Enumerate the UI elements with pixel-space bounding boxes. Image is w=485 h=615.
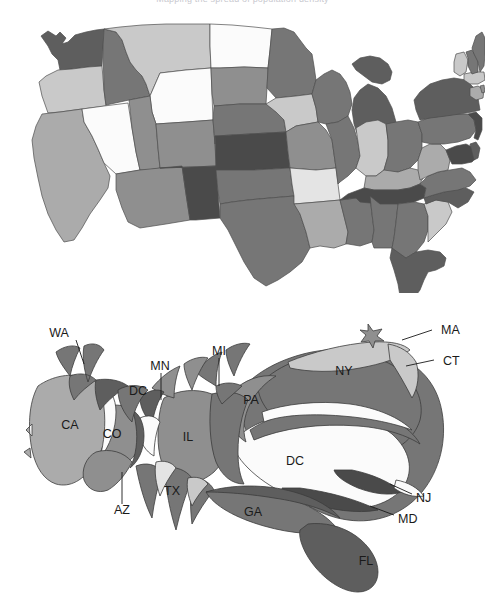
state-WY (150, 68, 213, 124)
cartogram-label-NY: NY (335, 364, 353, 378)
cartogram-shapes (24, 324, 444, 592)
cartogram-state-AZ (83, 450, 132, 491)
choropleth-states (32, 24, 485, 293)
state-IN (356, 120, 388, 176)
cartogram-label-PA: PA (243, 393, 259, 407)
cartogram-label-CO: CO (103, 427, 122, 441)
cartogram-label-AZ: AZ (114, 503, 130, 517)
cartogram-label-WA: WA (49, 326, 69, 340)
state-AZ (116, 166, 190, 228)
cartogram-label-CA: CA (61, 418, 79, 432)
cartogram-label-MD: MD (398, 512, 417, 526)
cartogram-label-MA: MA (441, 323, 460, 337)
cartogram-label-CT: CT (443, 354, 460, 368)
state-KS (215, 132, 290, 170)
state-OR (39, 66, 106, 113)
state-WA (41, 29, 104, 70)
state-CO (156, 120, 216, 168)
cartogram-label-DC-lower: DC (286, 454, 304, 468)
cartogram-label-NJ: NJ (416, 491, 431, 505)
figure-container: Mapping the spread of population density (0, 0, 485, 615)
cartogram-panel: WA MN DC MI MA CT NY PA CA CO IL DC AZ T… (0, 300, 485, 615)
state-WI (312, 70, 352, 124)
state-ND (210, 24, 272, 68)
leader-MA (402, 330, 432, 340)
cartogram-label-GA: GA (244, 505, 263, 519)
state-SD (211, 67, 268, 106)
state-VT (454, 52, 468, 76)
state-AR (290, 168, 340, 204)
state-SC (424, 200, 452, 242)
cartogram-label-FL: FL (359, 554, 374, 568)
state-MN (267, 28, 316, 98)
cartogram-label-MN: MN (150, 359, 169, 373)
state-OH (384, 120, 422, 172)
figure-title: Mapping the spread of population density (0, 0, 485, 4)
cartogram-label-IL: IL (183, 430, 193, 444)
cartogram-label-MI: MI (212, 344, 226, 358)
cartogram-label-DC-upper: DC (129, 384, 147, 398)
state-MA (464, 72, 485, 84)
state-GA (392, 202, 428, 258)
choropleth-panel (0, 18, 485, 293)
state-FL (390, 248, 446, 293)
cartogram-label-TX: TX (164, 484, 181, 498)
state-TX (220, 196, 310, 286)
